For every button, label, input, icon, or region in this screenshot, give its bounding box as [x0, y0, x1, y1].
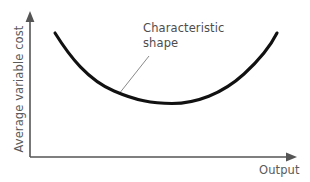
arrow-right-icon: [286, 153, 297, 162]
y-axis-label: Average variable cost: [13, 33, 26, 153]
annotation-line-2: shape: [143, 36, 227, 51]
annotation-line-1: Characteristic: [143, 21, 227, 36]
characteristic-shape-annotation: Characteristic shape: [143, 21, 227, 50]
x-axis-label: Output: [259, 164, 300, 177]
arrow-up-icon: [26, 11, 35, 22]
average-variable-cost-figure: Average variable cost Output Characteris…: [0, 0, 310, 182]
leader-line-icon: [121, 56, 150, 92]
